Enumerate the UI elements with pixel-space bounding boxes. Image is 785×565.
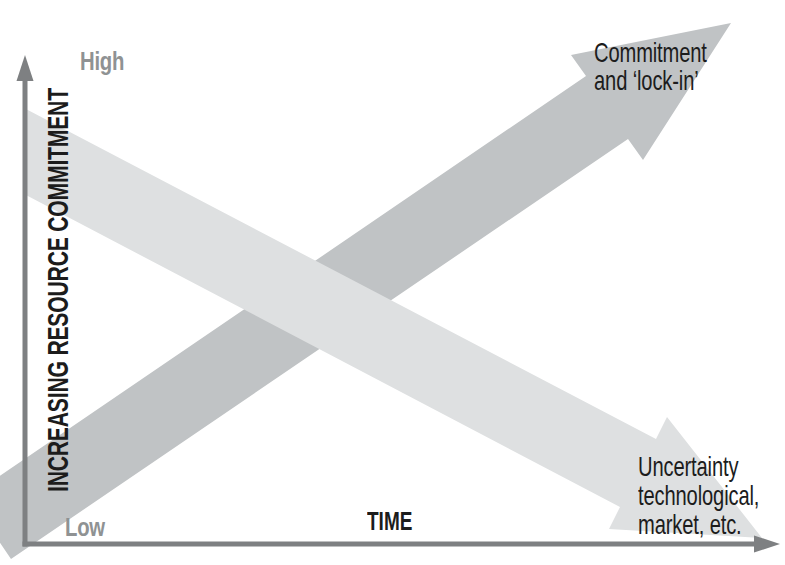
diagram-canvas: High Low INCREASING RESOURCE COMMITMENT … (0, 0, 785, 565)
y-axis-title: INCREASING RESOURCE COMMITMENT (42, 88, 75, 492)
y-axis-arrowhead-icon (17, 55, 34, 81)
uncertainty-arrow-label-line1: Uncertainty (638, 452, 759, 481)
x-axis-line (23, 542, 756, 547)
uncertainty-arrow-label: Uncertainty technological, market, etc. (638, 452, 759, 539)
uncertainty-arrow-label-line2: technological, (638, 481, 759, 510)
y-axis-low-label: Low (65, 512, 105, 543)
commitment-arrow-label-line2: and ‘lock-in’ (594, 67, 707, 95)
y-axis-line (23, 70, 28, 547)
commitment-arrow-label-line1: Commitment (594, 39, 707, 67)
x-axis-title: TIME (367, 507, 412, 536)
uncertainty-arrow-label-line3: market, etc. (638, 510, 759, 539)
commitment-arrow-label: Commitment and ‘lock-in’ (594, 39, 707, 95)
y-axis-high-label: High (80, 46, 124, 77)
